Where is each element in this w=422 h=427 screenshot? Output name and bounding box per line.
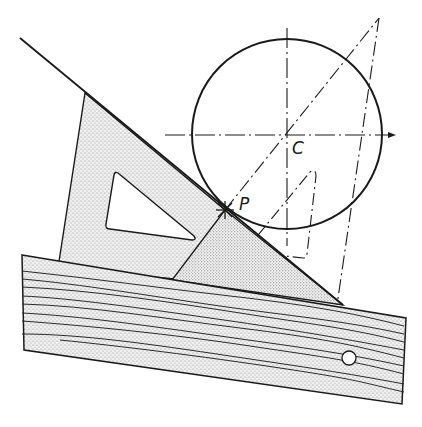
point-p-marker	[216, 201, 234, 219]
tangent-construction-diagram	[0, 0, 422, 427]
point-p-label: P	[239, 196, 249, 213]
ruler-hole	[342, 351, 356, 365]
center-c-label: C	[292, 140, 304, 157]
arrow-right-icon	[388, 132, 396, 138]
